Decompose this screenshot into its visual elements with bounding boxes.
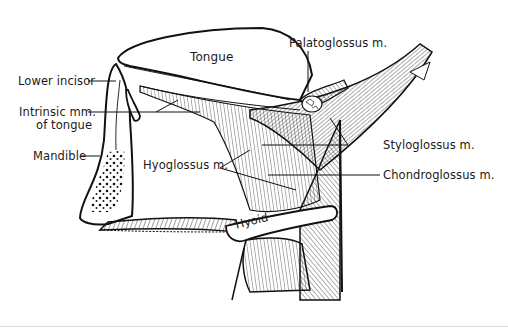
label-hyoglossus: Hyoglossus m. [143,159,228,172]
label-intrinsic-line2: of tongue [36,119,92,132]
label-palatoglossus: Palatoglossus m. [289,37,387,50]
label-tongue: Tongue [190,51,233,64]
infrahyoid-muscle [232,238,310,300]
label-styloglossus: Styloglossus m. [383,139,475,152]
bottom-divider [0,326,508,327]
label-mandible: Mandible [33,150,86,163]
label-lower-incisor: Lower incisor [18,75,95,88]
mandible-bone [80,64,140,225]
label-chondroglossus: Chondroglossus m. [383,169,494,182]
